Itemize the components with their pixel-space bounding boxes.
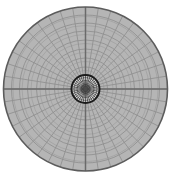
hub-core bbox=[83, 87, 88, 92]
polar-mesh-diagram bbox=[0, 0, 171, 180]
mesh-layer bbox=[4, 7, 168, 171]
figure-root bbox=[0, 0, 171, 180]
